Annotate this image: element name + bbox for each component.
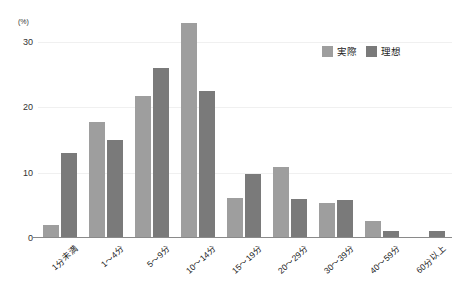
x-axis-line (33, 237, 452, 238)
bar-actual (135, 96, 151, 238)
bar-group (226, 16, 268, 238)
legend-label: 実際 (337, 47, 357, 57)
x-axis-tick-label: 30〜39分 (321, 242, 356, 276)
bar-actual (365, 221, 381, 238)
y-axis-tick-label: 30 (23, 37, 33, 47)
y-axis-tick-label: 0 (28, 233, 33, 243)
bar-ideal (199, 91, 215, 238)
bar-ideal (61, 153, 77, 238)
y-axis-tick-label: 10 (23, 168, 33, 178)
bar-chart: (%) 0102030 1分未満1〜4分5〜9分10〜14分15〜19分20〜2… (0, 0, 457, 298)
x-axis-tick-labels: 1分未満1〜4分5〜9分10〜14分15〜19分20〜29分30〜39分40〜5… (38, 240, 452, 296)
bar-actual (273, 167, 289, 238)
x-axis-tick-label: 1分未満 (48, 242, 80, 272)
bar-group (410, 16, 452, 238)
bar-group (88, 16, 130, 238)
bar-group (42, 16, 84, 238)
x-axis-tick-label: 60分以上 (413, 242, 448, 275)
bar-ideal (337, 200, 353, 238)
legend-label: 理想 (381, 47, 401, 57)
bar-ideal (107, 140, 123, 238)
bar-group (134, 16, 176, 238)
x-axis-tick-label: 15〜19分 (229, 242, 264, 276)
legend-swatch-icon (366, 46, 377, 57)
bar-actual (181, 23, 197, 238)
bar-ideal (153, 68, 169, 238)
legend: 実際理想 (322, 46, 401, 57)
y-axis-unit-label: (%) (18, 18, 29, 25)
legend-item[interactable]: 実際 (322, 46, 357, 57)
bar-ideal (245, 174, 261, 238)
x-axis-tick-label: 20〜29分 (275, 242, 310, 276)
bar-ideal (291, 199, 307, 238)
bar-actual (227, 198, 243, 238)
bar-group (180, 16, 222, 238)
x-axis-tick-label: 40〜59分 (367, 242, 402, 276)
x-axis-tick-label: 10〜14分 (183, 242, 218, 276)
legend-item[interactable]: 理想 (366, 46, 401, 57)
bar-group (272, 16, 314, 238)
legend-swatch-icon (322, 46, 333, 57)
x-axis-tick-label: 1〜4分 (98, 242, 126, 269)
y-axis-tick-label: 20 (23, 102, 33, 112)
bar-actual (89, 122, 105, 238)
x-axis-tick-label: 5〜9分 (144, 242, 172, 269)
bar-actual (319, 203, 335, 238)
